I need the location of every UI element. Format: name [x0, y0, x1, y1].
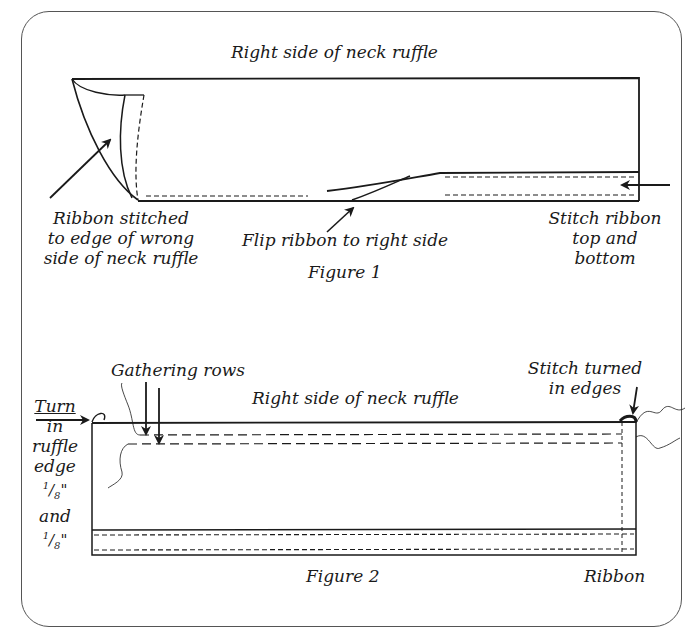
label-ribbon-stitched: Ribbon stitched to edge of wrong side of… [26, 208, 216, 268]
label-line: side of neck ruffle [26, 248, 216, 268]
fraction-num: 1 [43, 480, 49, 491]
label-line: Turn [24, 396, 86, 416]
fraction-num: 1 [43, 530, 49, 541]
label-line: edge [24, 456, 86, 476]
label-line: Ribbon stitched [26, 208, 216, 228]
fraction-2: 1/8" [24, 526, 86, 556]
label-line: in [24, 416, 86, 436]
label-line: Stitch ribbon [530, 208, 680, 228]
label-stitch-turned: Stitch turned in edges [520, 358, 650, 398]
label-line: in edges [520, 378, 650, 398]
label-line: bottom [530, 248, 680, 268]
label-turn-in: Turn in ruffle edge 1/8" and 1/8" [24, 396, 86, 556]
fraction-unit: " [60, 481, 67, 499]
label-line: ruffle [24, 436, 86, 456]
label-stitch-ribbon: Stitch ribbon top and bottom [530, 208, 680, 268]
label-flip-ribbon: Flip ribbon to right side [242, 230, 448, 250]
label-line: top and [530, 228, 680, 248]
fraction-unit: " [60, 531, 67, 549]
figure1-caption: Figure 1 [308, 262, 381, 282]
sewing-diagram [0, 0, 693, 643]
label-ribbon: Ribbon [584, 566, 645, 586]
label-line: and [24, 506, 86, 526]
figure1-title: Right side of neck ruffle [231, 42, 438, 62]
label-line: Stitch turned [520, 358, 650, 378]
figure2-title: Right side of neck ruffle [252, 388, 459, 408]
label-gathering-rows: Gathering rows [111, 360, 245, 380]
figure2-caption: Figure 2 [306, 566, 379, 586]
fraction-1: 1/8" [24, 476, 86, 506]
label-line: to edge of wrong [26, 228, 216, 248]
